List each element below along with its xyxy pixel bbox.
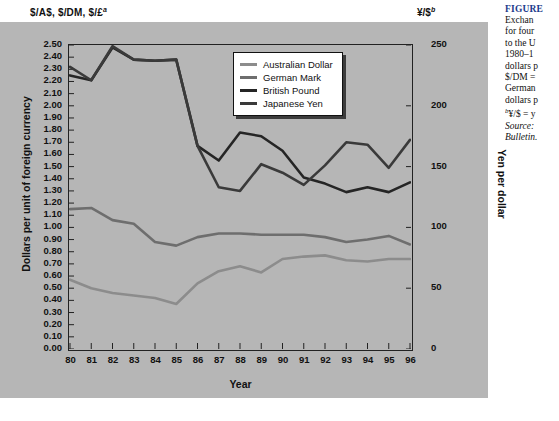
x-tick-label: 83	[129, 355, 140, 365]
legend-label: Australian Dollar	[263, 60, 333, 70]
y-tick-label: 1.90	[44, 112, 63, 122]
y-tick-label: 0.70	[44, 258, 63, 268]
x-tick-label: 96	[405, 355, 416, 365]
legend-swatch-icon	[240, 102, 257, 105]
x-tick-label: 80	[65, 355, 76, 365]
left-axis-unit-text: $/A$, $/DM, $/£	[30, 7, 103, 18]
x-tick-label: 94	[363, 355, 374, 365]
legend-swatch-icon	[240, 89, 257, 92]
chart-legend: Australian DollarGerman MarkBritish Poun…	[233, 52, 343, 116]
x-tick-label: 88	[235, 355, 246, 365]
left-axis-unit-superscript: a	[103, 6, 107, 13]
y-tick-label: 2.10	[44, 88, 63, 98]
figure-root: $/A$, $/DM, $/£a ¥/$b 2.502.402.302.202.…	[0, 0, 559, 421]
caption-line: Bulletin.	[505, 132, 559, 143]
x-tick-label: 95	[384, 355, 395, 365]
y2-tick-label: 100	[431, 221, 447, 231]
x-tick-label: 86	[193, 355, 204, 365]
figure-caption: FIGURE Exchanfor fourto the U1980–1dolla…	[505, 4, 559, 154]
y-axis-title: Dollars per unit of foreign currency	[20, 74, 32, 294]
caption-line: German	[505, 83, 559, 94]
caption-title: FIGURE	[505, 4, 559, 15]
legend-label: British Pound	[263, 86, 320, 96]
caption-line: dollars p	[505, 61, 559, 72]
y2-tick-label: 50	[431, 282, 442, 292]
caption-superscript: b	[505, 107, 509, 115]
y-tick-label: 0.80	[44, 246, 63, 256]
y-tick-label: 1.00	[44, 221, 63, 231]
legend-item: Japanese Yen	[240, 97, 333, 110]
x-tick-label: 89	[256, 355, 267, 365]
legend-item: Australian Dollar	[240, 58, 333, 71]
caption-line: Exchan	[505, 15, 559, 26]
y-tick-label: 1.60	[44, 148, 63, 158]
legend-label: German Mark	[263, 73, 321, 83]
y-tick-label: 0.50	[44, 282, 63, 292]
y-tick-label: 2.40	[44, 51, 63, 61]
right-axis-unit-text: ¥/$	[417, 7, 431, 18]
x-tick-label: 81	[86, 355, 97, 365]
y-tick-label: 2.50	[44, 39, 63, 49]
series-line	[70, 208, 410, 246]
right-axis-unit-label: ¥/$b	[417, 6, 435, 18]
y-tick-label: 0.40	[44, 294, 63, 304]
series-line	[70, 255, 410, 304]
caption-line: dollars p	[505, 95, 559, 106]
legend-swatch-icon	[240, 76, 257, 79]
caption-line: to the U	[505, 38, 559, 49]
caption-line: b¥/$ = y	[505, 106, 559, 121]
y-tick-label: 2.00	[44, 100, 63, 110]
y2-tick-label: 0	[431, 343, 436, 353]
legend-swatch-icon	[240, 63, 257, 66]
right-axis-tick-labels: 250200150100500	[421, 44, 455, 351]
x-tick-label: 91	[299, 355, 310, 365]
x-tick-label: 85	[171, 355, 182, 365]
right-axis-unit-superscript: b	[431, 6, 435, 13]
y-tick-label: 0.60	[44, 270, 63, 280]
y-tick-label: 0.30	[44, 307, 63, 317]
left-axis-tick-labels: 2.502.402.302.202.102.001.901.801.701.60…	[28, 44, 66, 351]
x-tick-label: 92	[320, 355, 331, 365]
y-tick-label: 2.30	[44, 63, 63, 73]
y-tick-label: 2.20	[44, 75, 63, 85]
y-tick-label: 1.50	[44, 161, 63, 171]
caption-line: Source:	[505, 121, 559, 132]
legend-label: Japanese Yen	[263, 99, 323, 109]
left-axis-unit-label: $/A$, $/DM, $/£a	[30, 6, 107, 18]
caption-body: Exchanfor fourto the U1980–1dollars p$/D…	[505, 15, 559, 144]
x-tick-label: 93	[341, 355, 352, 365]
x-tick-label: 87	[214, 355, 225, 365]
y2-tick-label: 250	[431, 39, 447, 49]
y-tick-label: 0.20	[44, 319, 63, 329]
y2-tick-label: 150	[431, 161, 447, 171]
x-tick-label: 84	[150, 355, 161, 365]
caption-line: 1980–1	[505, 49, 559, 60]
y-tick-label: 1.10	[44, 209, 63, 219]
x-axis-title: Year	[68, 378, 413, 390]
y-tick-label: 1.80	[44, 124, 63, 134]
caption-line: $/DM =	[505, 72, 559, 83]
y-tick-label: 1.30	[44, 185, 63, 195]
y-tick-label: 0.90	[44, 234, 63, 244]
x-axis-tick-labels: 8081828384858687888990919293949596	[68, 355, 413, 369]
y-tick-label: 1.20	[44, 197, 63, 207]
x-tick-label: 90	[278, 355, 289, 365]
legend-item: German Mark	[240, 71, 333, 84]
y-tick-label: 0.00	[44, 343, 63, 353]
page-bottom-margin	[0, 398, 488, 421]
y-tick-label: 0.10	[44, 331, 63, 341]
caption-line: for four	[505, 26, 559, 37]
legend-item: British Pound	[240, 84, 333, 97]
x-tick-label: 82	[108, 355, 119, 365]
y2-tick-label: 200	[431, 100, 447, 110]
y-tick-label: 1.40	[44, 173, 63, 183]
y-tick-label: 1.70	[44, 136, 63, 146]
